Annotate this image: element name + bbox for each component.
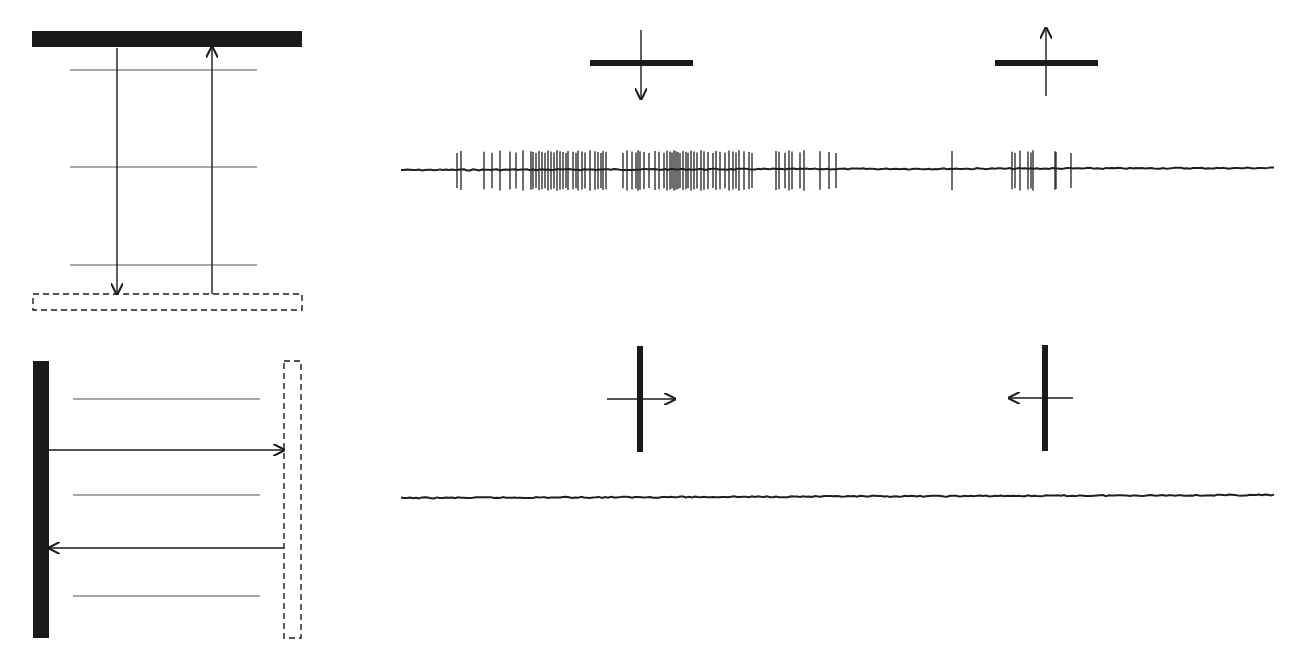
response-traces [401, 150, 1274, 498]
dashed-bar-outline [284, 361, 301, 638]
trace-baseline [401, 168, 1274, 171]
trace-baseline [401, 495, 1274, 499]
solid-bar [32, 31, 302, 47]
bar-vertical-moving-left-icon [1009, 345, 1073, 451]
bar-horizontal-moving-up-icon [995, 28, 1098, 96]
response-trace-horizontal-motion [401, 495, 1274, 499]
figure-canvas [0, 0, 1310, 657]
solid-bar [33, 361, 49, 638]
response-trace-vertical-motion [401, 150, 1274, 190]
stimulus-icons [590, 28, 1098, 452]
dashed-bar-outline [33, 294, 302, 310]
top-left-schematic [32, 31, 302, 310]
bar-vertical-moving-right-icon [607, 346, 675, 452]
bar-horizontal-moving-down-icon [590, 30, 693, 99]
bottom-left-schematic [33, 361, 301, 638]
